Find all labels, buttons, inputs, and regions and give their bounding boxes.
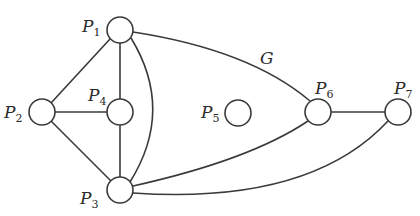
label-p1: P1 [81,16,100,39]
node-p3 [107,177,133,203]
label-p2: P2 [3,102,22,125]
node-p2 [29,99,55,125]
node-p4 [107,99,133,125]
edge-p3-p7 [133,121,388,195]
label-p4: P4 [87,85,106,108]
edges [51,32,388,195]
labels: P1 P2 P3 P4 P5 P6 P7 G [3,16,412,211]
graph-name-label: G [260,48,274,68]
label-p5: P5 [200,102,219,125]
edge-p1-p6 [133,32,310,101]
node-p5 [225,100,251,126]
label-p7: P7 [393,78,412,101]
node-p1 [107,17,133,43]
edge-p2-p3 [51,121,111,181]
label-p3: P3 [79,188,98,211]
nodes [29,17,411,203]
node-p7 [385,99,411,125]
node-p6 [305,99,331,125]
edge-p3-p6 [133,121,308,186]
label-p6: P6 [314,78,333,101]
edge-p1-p2 [51,39,110,103]
graph-diagram: P1 P2 P3 P4 P5 P6 P7 G [0,0,420,216]
